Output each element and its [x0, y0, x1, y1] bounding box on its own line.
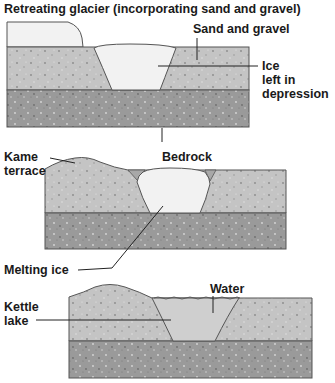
label-ice-1: Ice	[262, 59, 279, 73]
kettle-lake-diagram: Retreating glacier (incorporating sand a…	[0, 0, 335, 383]
label-kettle-2: lake	[4, 314, 28, 328]
label-ice-3: depression	[262, 87, 329, 101]
label-water: Water	[210, 282, 244, 296]
label-kame-2: terrace	[4, 164, 46, 178]
panel-retreating-glacier: Sand and gravel Ice left in depression B…	[7, 22, 329, 164]
melting-ice-block	[137, 168, 210, 213]
diagram-title: Retreating glacier (incorporating sand a…	[4, 2, 301, 16]
bedrock-layer	[45, 213, 286, 249]
label-bedrock: Bedrock	[162, 150, 212, 164]
bedrock-layer	[69, 341, 312, 378]
bedrock-layer	[7, 90, 249, 127]
label-sand-gravel: Sand and gravel	[193, 22, 290, 36]
label-ice-2: left in	[262, 73, 295, 87]
glacier-ice	[7, 22, 83, 47]
leader-melting-ice-h	[78, 268, 112, 270]
panel-kettle-lake: Water Kettle lake	[4, 282, 312, 378]
label-kame-1: Kame	[4, 150, 38, 164]
label-melting-ice: Melting ice	[4, 263, 69, 277]
panel-melting-ice: Kame terrace Melting ice	[4, 150, 286, 277]
label-kettle-1: Kettle	[4, 300, 39, 314]
